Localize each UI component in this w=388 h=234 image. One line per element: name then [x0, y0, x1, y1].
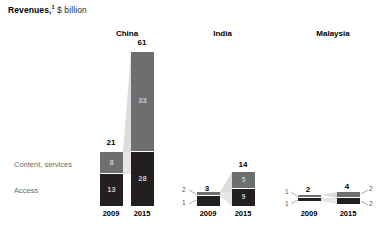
bar-value-content-india-2015: 5 — [232, 177, 255, 184]
axis-year-india-2015: 2015 — [228, 209, 258, 218]
bar-segment-content-china-2009: 8 — [100, 152, 123, 174]
bar-segment-access-china-2015: 28 — [131, 152, 154, 206]
bar-total-china-2009: 21 — [96, 138, 126, 147]
bar-segment-content-india-2015: 5 — [232, 172, 255, 189]
panel-malaysia: 2 1 1 4 2 2 2009 2015 — [285, 0, 388, 234]
bar-segment-access-india-2015: 9 — [232, 189, 255, 206]
bar-value-access-china-2015: 28 — [131, 175, 154, 183]
axis-year-india-2009: 2009 — [193, 209, 223, 218]
bar-value-access-india-2009: 1 — [182, 200, 186, 207]
bar-total-china-2015: 61 — [127, 38, 157, 47]
bar-value-access-china-2009: 13 — [100, 186, 123, 194]
bar-segment-access-china-2009: 13 — [100, 174, 123, 206]
bar-value-access-india-2015: 9 — [232, 194, 255, 201]
bar-value-content-malaysia-2015: 2 — [369, 186, 373, 193]
chart-root: Revenues,1 $ billion China India Malaysi… — [0, 0, 388, 234]
axis-year-malaysia-2015: 2015 — [333, 209, 363, 218]
panel-china: 21 8 13 61 33 28 2009 2015 — [0, 0, 180, 234]
panel-india: 3 2 1 14 5 9 2009 2015 — [180, 0, 285, 234]
bar-value-content-india-2009: 2 — [182, 187, 186, 194]
axis-year-malaysia-2009: 2009 — [294, 209, 324, 218]
axis-year-china-2009: 2009 — [96, 209, 126, 218]
axis-year-china-2015: 2015 — [127, 209, 157, 218]
leader-lines-malaysia-2015 — [285, 0, 388, 234]
bar-total-india-2015: 14 — [228, 160, 258, 169]
bar-segment-content-china-2015: 33 — [131, 52, 154, 152]
bar-value-content-china-2015: 33 — [131, 97, 154, 105]
bar-value-access-malaysia-2015: 2 — [369, 201, 373, 208]
bar-value-content-china-2009: 8 — [100, 159, 123, 167]
